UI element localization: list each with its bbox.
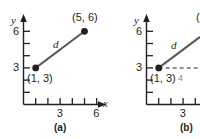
panel-a-y-tick-3: 3 bbox=[13, 62, 19, 73]
panel-b-x-ticks bbox=[159, 98, 196, 105]
panel-a-x-ticks bbox=[36, 98, 97, 105]
panel-a: y x 6 3 3 6 (1, 3) (5, 6) d (a) bbox=[0, 0, 118, 139]
panel-a-y-axis bbox=[20, 14, 27, 105]
panel-a-point-label-1-3: (1, 3) bbox=[27, 73, 53, 84]
panel-b-y-axis bbox=[143, 14, 150, 105]
panel-b-point-1-3 bbox=[155, 65, 162, 72]
panel-a-point-label-5-6: (5, 6) bbox=[72, 12, 98, 23]
panel-b-x-tick-3: 3 bbox=[180, 108, 186, 119]
panel-a-x-axis-label: x bbox=[103, 98, 108, 109]
panel-b-y-tick-6: 6 bbox=[136, 26, 142, 37]
panel-a-caption: (a) bbox=[54, 122, 66, 133]
panel-b: y 6 3 3 (1, 3) ( d 4 (b) bbox=[118, 0, 200, 139]
panel-a-x-tick-3: 3 bbox=[57, 108, 63, 119]
panel-b-segment-d bbox=[159, 37, 200, 68]
panel-a-segment-label: d bbox=[53, 39, 59, 50]
panel-a-point-1-3 bbox=[32, 65, 39, 72]
panel-b-point-label-5-6: ( bbox=[196, 12, 200, 23]
panel-a-x-tick-6: 6 bbox=[93, 108, 99, 119]
panel-b-point-label-1-3: (1, 3) bbox=[150, 73, 176, 84]
panel-b-y-tick-3: 3 bbox=[136, 62, 142, 73]
panel-b-plot bbox=[118, 0, 200, 139]
panel-b-caption: (b) bbox=[180, 122, 193, 133]
panel-a-y-tick-6: 6 bbox=[13, 26, 19, 37]
panel-b-horizontal-leg-label: 4 bbox=[178, 73, 183, 84]
distance-formula-figure: y x 6 3 3 6 (1, 3) (5, 6) d (a) bbox=[0, 0, 200, 139]
panel-a-point-5-6 bbox=[81, 28, 88, 35]
panel-a-segment-d bbox=[36, 31, 85, 68]
panel-b-segment-label: d bbox=[171, 40, 177, 51]
